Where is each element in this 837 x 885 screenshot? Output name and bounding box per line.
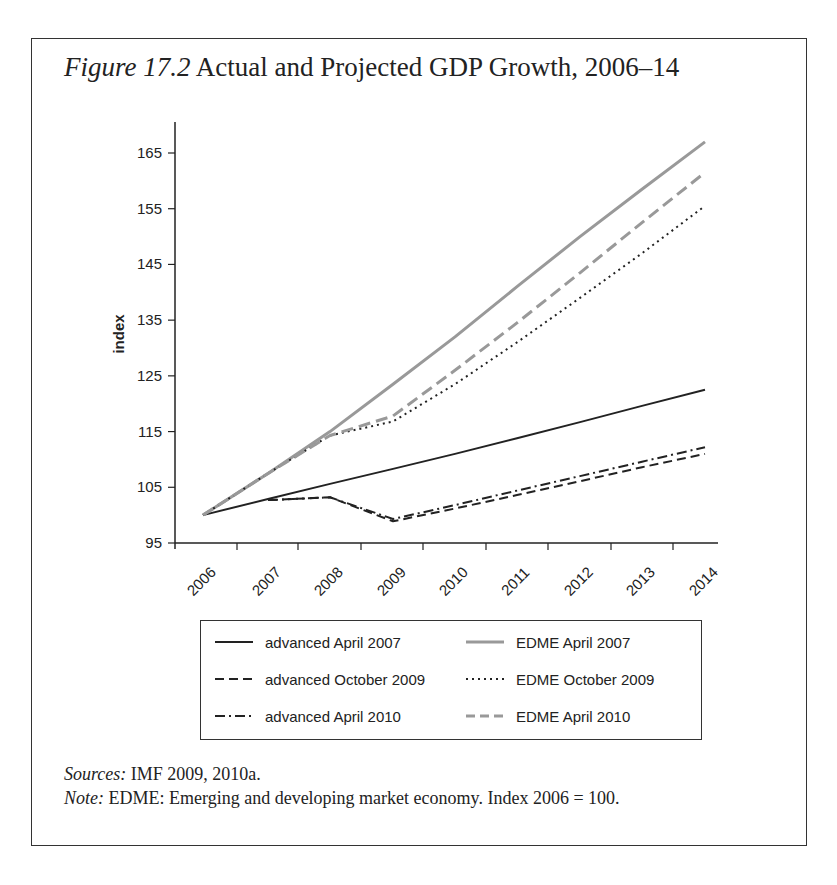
note-line: Note: EDME: Emerging and developing mark… <box>64 786 620 810</box>
y-axis-label: index <box>110 314 127 354</box>
x-tick-label: 2009 <box>373 563 409 599</box>
legend-item: EDME April 2010 <box>466 703 630 729</box>
y-tick-label: 125 <box>137 367 162 384</box>
x-tick-label: 2010 <box>435 563 471 599</box>
legend-swatch-icon <box>215 711 253 721</box>
note-text: EDME: Emerging and developing market eco… <box>104 788 620 808</box>
legend-swatch-icon <box>215 674 253 684</box>
series-line-advanced-october-2009 <box>268 454 705 521</box>
x-tick-label: 2006 <box>183 563 219 599</box>
legend-label: EDME October 2009 <box>516 671 654 688</box>
y-tick-label: 95 <box>145 534 162 551</box>
x-tick-label: 2008 <box>310 563 346 599</box>
series-lines <box>203 142 705 521</box>
legend-label: advanced April 2007 <box>265 634 401 651</box>
y-tick-label: 145 <box>137 255 162 272</box>
y-tick-label: 155 <box>137 200 162 217</box>
legend: advanced April 2007EDME April 2007advanc… <box>200 620 702 740</box>
x-tick-label: 2011 <box>498 564 533 599</box>
legend-item: advanced April 2010 <box>215 703 401 729</box>
y-tick-label: 135 <box>137 311 162 328</box>
legend-label: advanced October 2009 <box>265 671 425 688</box>
legend-swatch-icon <box>466 674 504 684</box>
y-tick-label: 165 <box>137 144 162 161</box>
legend-label: EDME April 2010 <box>516 708 630 725</box>
legend-swatch-icon <box>466 711 504 721</box>
chart-plot: 95105115125135145155165index200620072008… <box>0 0 837 620</box>
y-tick-label: 115 <box>138 423 162 440</box>
legend-swatch-icon <box>215 637 253 647</box>
x-tick-label: 2014 <box>685 563 721 599</box>
legend-item: EDME April 2007 <box>466 629 630 655</box>
sources-text: IMF 2009, 2010a. <box>126 764 261 784</box>
series-line-edme-april-2007 <box>203 142 705 515</box>
figure-notes: Sources: IMF 2009, 2010a. Note: EDME: Em… <box>64 762 620 810</box>
legend-item: EDME October 2009 <box>466 666 654 692</box>
legend-item: advanced April 2007 <box>215 629 401 655</box>
legend-item: advanced October 2009 <box>215 666 425 692</box>
y-tick-label: 105 <box>137 478 162 495</box>
legend-label: advanced April 2010 <box>265 708 401 725</box>
sources-label: Sources: <box>64 764 126 784</box>
legend-label: EDME April 2007 <box>516 634 630 651</box>
x-tick-label: 2013 <box>622 563 658 599</box>
x-tick-label: 2012 <box>560 563 596 599</box>
note-label: Note: <box>64 788 104 808</box>
series-line-advanced-april-2007 <box>203 390 705 515</box>
x-tick-label: 2007 <box>248 563 284 599</box>
legend-swatch-icon <box>466 637 504 647</box>
axes: 95105115125135145155165index200620072008… <box>110 122 721 599</box>
sources-line: Sources: IMF 2009, 2010a. <box>64 762 620 786</box>
series-line-edme-october-2009 <box>203 206 705 515</box>
series-line-edme-april-2010 <box>203 173 705 516</box>
